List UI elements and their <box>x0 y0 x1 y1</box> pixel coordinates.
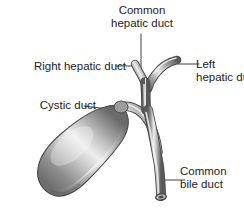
label-common-bile-duct-line2: bile duct <box>180 178 244 191</box>
label-left-hepatic-duct-line1: Left <box>196 58 244 71</box>
common-bile-duct <box>146 110 167 201</box>
gallbladder <box>38 106 129 197</box>
label-common-bile-duct: Common bile duct <box>180 165 244 191</box>
label-left-hepatic-duct-line2: hepatic duct <box>196 71 244 84</box>
label-right-hepatic-duct-line1: Right hepatic duct <box>8 60 126 73</box>
left-hepatic-duct <box>148 58 177 89</box>
label-common-hepatic-duct: Common hepatic duct <box>98 4 186 30</box>
label-left-hepatic-duct: Left hepatic duct <box>196 58 244 84</box>
label-common-hepatic-duct-line2: hepatic duct <box>98 17 186 30</box>
label-common-hepatic-duct-line1: Common <box>98 4 186 17</box>
label-common-bile-duct-line1: Common <box>180 165 244 178</box>
common-hepatic-duct-highlight <box>144 84 145 108</box>
cystic-duct-neck <box>114 101 128 113</box>
label-cystic-duct: Cystic duct <box>18 99 96 112</box>
label-right-hepatic-duct: Right hepatic duct <box>8 60 126 73</box>
label-cystic-duct-line1: Cystic duct <box>18 99 96 112</box>
anatomy-figure: Common hepatic duct Right hepatic duct L… <box>0 0 244 220</box>
